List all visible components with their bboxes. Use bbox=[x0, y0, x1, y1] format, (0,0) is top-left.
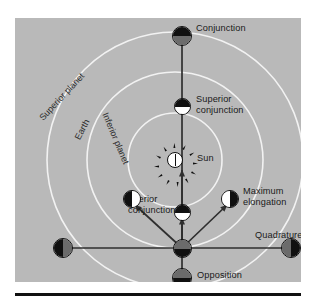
superior-conjunction-label: Superior conjunction bbox=[196, 94, 244, 115]
sun-ray bbox=[154, 166, 159, 168]
bottom-divider-rule bbox=[15, 293, 301, 296]
planet-earth-observer bbox=[173, 239, 192, 258]
planetary-configuration-diagram: Sun Conjunction Superior conjunction Inf… bbox=[15, 18, 301, 282]
maximum-elongation-label: Maximum elongation bbox=[243, 186, 286, 207]
maximum-elongation-label-line1: Maximum bbox=[243, 186, 284, 196]
superior-conjunction-label-line1: Superior bbox=[196, 94, 232, 104]
planet-opposition bbox=[172, 268, 192, 282]
planet-maximum-elongation-east bbox=[221, 190, 239, 208]
planet-conjunction bbox=[172, 26, 192, 46]
planet-superior-conjunction bbox=[174, 98, 191, 115]
sun-icon bbox=[167, 152, 183, 168]
maximum-elongation-label-line2: elongation bbox=[243, 197, 286, 207]
planet-quadrature-west bbox=[53, 238, 73, 258]
planet-inferior-conjunction bbox=[174, 204, 191, 221]
sun-ray bbox=[173, 143, 175, 148]
planet-quadrature-east bbox=[281, 238, 301, 258]
planet-maximum-elongation-west bbox=[123, 190, 141, 208]
opposition-label: Opposition bbox=[197, 270, 242, 281]
quadrature-label: Quadrature bbox=[255, 230, 301, 241]
conjunction-label: Conjunction bbox=[196, 23, 246, 34]
sun-ray bbox=[177, 182, 179, 187]
superior-conjunction-label-line2: conjunction bbox=[196, 105, 244, 115]
sun-label: Sun bbox=[197, 153, 214, 164]
